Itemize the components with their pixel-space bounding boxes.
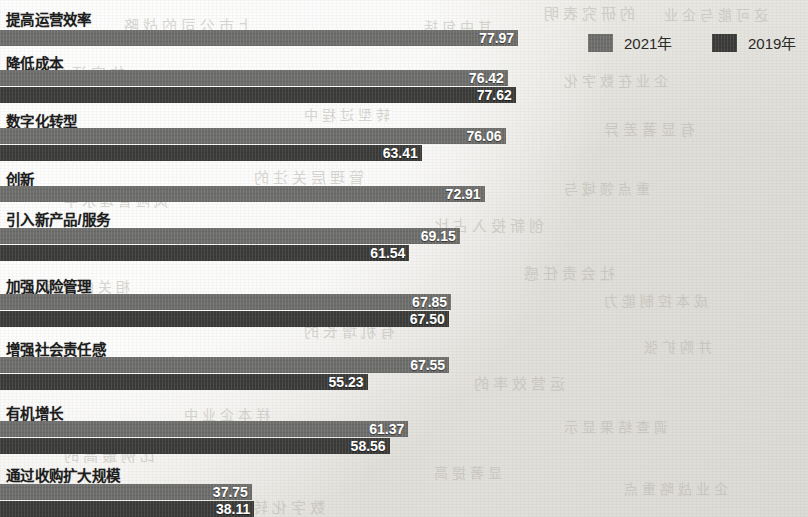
bar-value-label: 76.42: [464, 70, 504, 86]
bar-texture: [0, 128, 506, 144]
bar-value-label: 67.85: [407, 294, 447, 310]
bar: [0, 311, 449, 327]
legend-item-2021[interactable]: 2021年: [588, 32, 672, 53]
bar-value-label: 77.62: [472, 87, 512, 103]
bar-texture: [0, 357, 449, 373]
bar: [0, 87, 516, 103]
legend-swatch-texture: [712, 34, 737, 52]
legend-swatch-icon: [712, 34, 737, 52]
category-label: 加强风险管理: [6, 275, 92, 296]
bar: [0, 128, 506, 144]
legend-item-2019[interactable]: 2019年: [712, 32, 796, 53]
bar-texture: [0, 245, 409, 261]
legend-label: 2019年: [748, 32, 796, 53]
bar-texture: [0, 87, 516, 103]
bar-texture: [0, 421, 408, 437]
bar: [0, 186, 485, 202]
bar-value-label: 61.54: [365, 245, 405, 261]
bar: [0, 70, 508, 86]
bar-value-label: 61.37: [364, 421, 404, 437]
bar: [0, 357, 449, 373]
category-label: 引入新产品/服务: [6, 208, 110, 229]
bar: [0, 438, 390, 454]
bar: [0, 145, 422, 161]
bar: [0, 374, 368, 390]
bar: [0, 421, 408, 437]
bar: [0, 294, 451, 310]
bar-texture: [0, 186, 485, 202]
category-label: 有机增长: [6, 402, 63, 423]
bar-texture: [0, 228, 460, 244]
bar-value-label: 72.91: [441, 186, 481, 202]
bar: [0, 228, 460, 244]
bar-value-label: 67.55: [405, 357, 445, 373]
bar-value-label: 58.56: [346, 438, 386, 454]
bar-texture: [0, 294, 451, 310]
legend-swatch-icon: [588, 34, 613, 52]
legend-swatch-texture: [588, 34, 613, 52]
bar-value-label: 63.41: [378, 145, 418, 161]
bar-texture: [0, 145, 422, 161]
legend-label: 2021年: [624, 32, 672, 53]
bar-value-label: 38.11: [210, 501, 250, 517]
bar-texture: [0, 311, 449, 327]
bar: [0, 245, 409, 261]
category-label: 提高运营效率: [6, 8, 92, 29]
category-label: 通过收购扩大规模: [6, 464, 120, 485]
bar-texture: [0, 374, 368, 390]
bar-value-label: 55.23: [324, 374, 364, 390]
bar-texture: [0, 70, 508, 86]
bar-value-label: 67.50: [405, 311, 445, 327]
bar-texture: [0, 30, 518, 46]
bar-value-label: 69.15: [416, 228, 456, 244]
bar-texture: [0, 438, 390, 454]
bar-value-label: 77.97: [474, 30, 514, 46]
bar: [0, 30, 518, 46]
category-label: 增强社会责任感: [6, 338, 106, 359]
bar-value-label: 37.75: [208, 484, 248, 500]
bar-value-label: 76.06: [462, 128, 502, 144]
horizontal-bar-chart: 提高运营效率77.97降低成本76.4277.62数字化转型76.0663.41…: [0, 0, 808, 517]
